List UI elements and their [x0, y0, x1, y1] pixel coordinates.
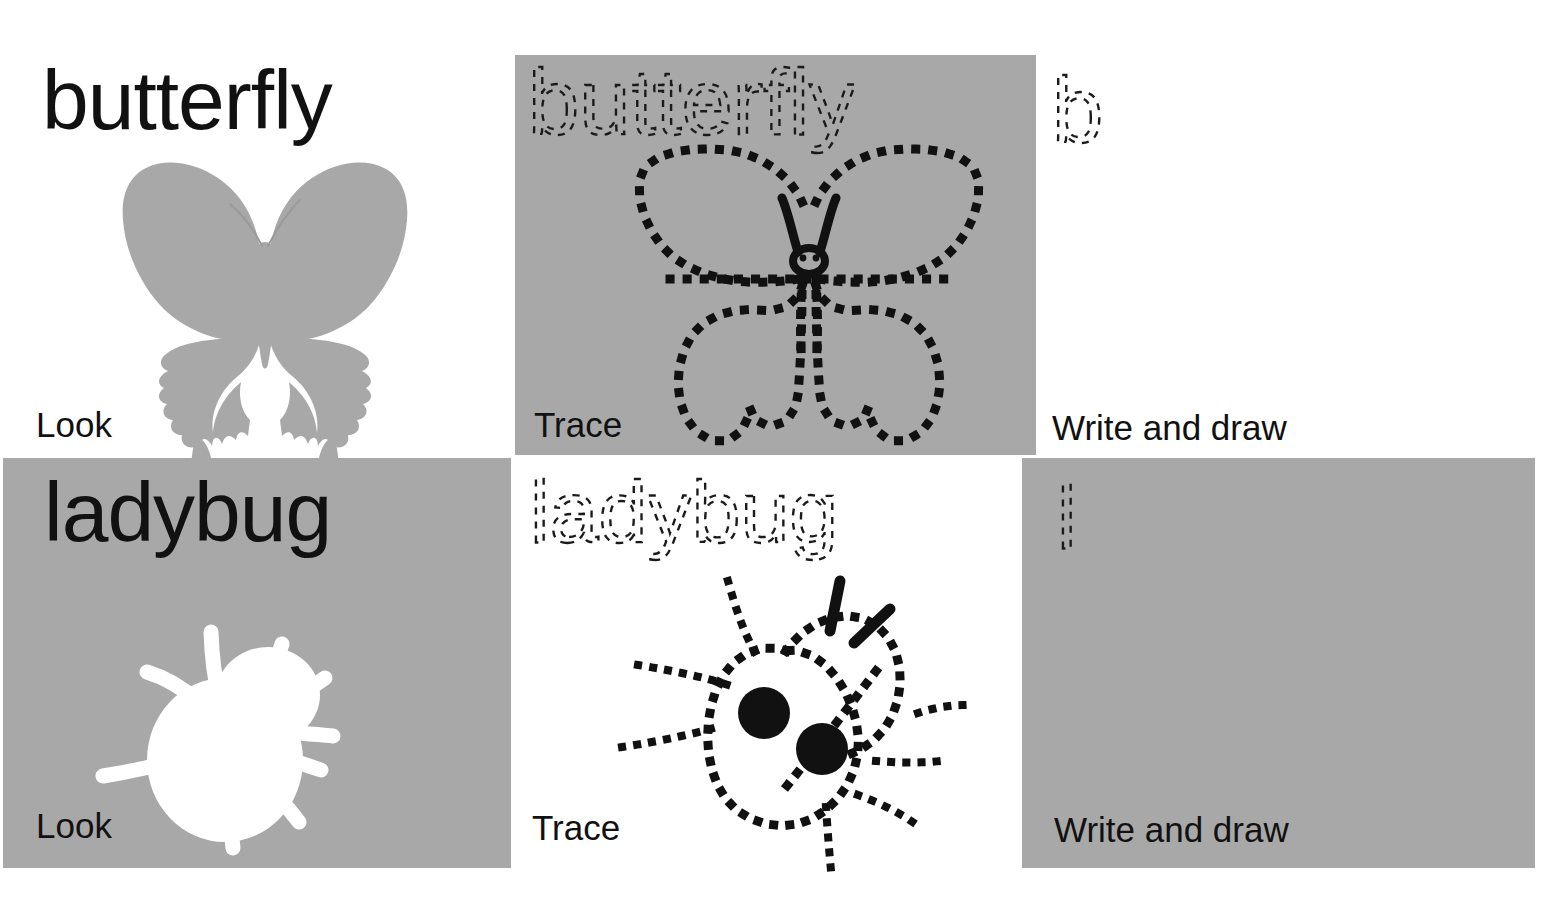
caption-look-butterfly: Look	[36, 407, 112, 442]
caption-write-ladybug: Write and draw	[1054, 812, 1289, 847]
caption-trace-ladybug: Trace	[532, 810, 620, 845]
trace-word-ladybug[interactable]: ladybug	[530, 462, 910, 572]
trace-letter-b-text: b	[1052, 59, 1103, 161]
ladybug-silhouette-icon	[85, 550, 395, 860]
butterfly-dotted-outline-icon[interactable]	[630, 140, 1000, 460]
caption-write-butterfly: Write and draw	[1052, 410, 1287, 445]
word-butterfly: butterfly	[42, 58, 332, 142]
ladybug-spot	[796, 723, 848, 775]
caption-look-ladybug: Look	[36, 808, 112, 843]
trace-letter-b[interactable]: b	[1052, 58, 1162, 168]
caption-trace-butterfly: Trace	[534, 407, 622, 442]
word-ladybug: ladybug	[44, 470, 331, 554]
worksheet-page: butterfly	[0, 0, 1545, 921]
ladybug-spot	[738, 687, 790, 739]
trace-word-ladybug-text: ladybug	[530, 462, 838, 561]
trace-word-butterfly-text: butterfly	[528, 51, 855, 153]
trace-letter-l[interactable]: l	[1057, 468, 1127, 578]
ladybug-dotted-outline-icon[interactable]	[618, 565, 988, 890]
butterfly-silhouette-icon	[110, 150, 420, 450]
trace-letter-l-text: l	[1057, 468, 1077, 567]
